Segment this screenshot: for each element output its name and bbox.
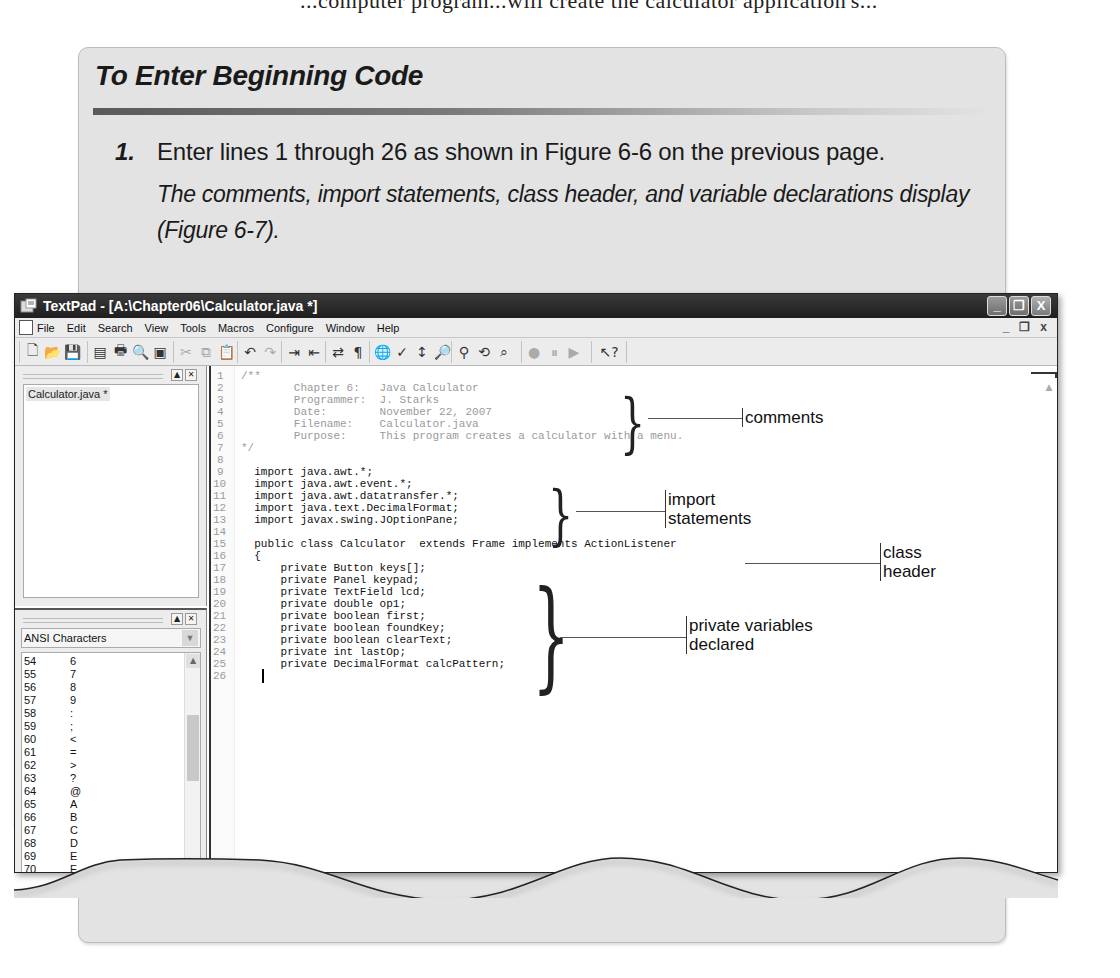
find-icon[interactable]: 🔎 [434,343,450,361]
code-line: Purpose: This program creates a calculat… [241,430,683,442]
code-line: import java.text.DecimalFormat; [241,502,459,514]
doc-close-button[interactable]: x [1040,320,1047,334]
list-item[interactable]: 62> [24,759,174,772]
step-result: The comments, import statements, class h… [157,176,997,248]
indent-icon[interactable]: ⇥ [286,343,302,361]
pane-maximize-button[interactable]: ▲ [171,613,183,625]
copy-icon[interactable]: ⧉ [198,343,214,361]
doc-restore-button[interactable]: ❐ [1019,320,1030,334]
code-line: private double op1; [241,598,406,610]
list-item[interactable]: 69E [24,850,174,863]
paste-icon[interactable]: 📋 [218,343,234,361]
line-number-gutter: 1 2 3 4 5 6 7 8 9 10 11 12 13 14 15 16 1… [211,366,235,873]
menu-configure[interactable]: Configure [266,322,314,334]
clip-library-select[interactable]: ANSI Characters ▼ [21,628,201,648]
list-item[interactable]: 568 [24,681,174,694]
unindent-icon[interactable]: ⇤ [306,343,322,361]
list-item[interactable]: 61= [24,746,174,759]
callout-class-header: classheader [880,543,936,581]
spelling-icon[interactable]: ✓ [394,343,410,361]
restore-button[interactable]: ❐ [1009,296,1029,316]
list-item[interactable]: 60< [24,733,174,746]
code-line: { [241,550,261,562]
sort-icon[interactable]: ↕ [414,343,430,361]
new-file-icon[interactable]: 🗋 [24,343,40,361]
open-folder-icon[interactable]: 📂 [44,343,60,361]
code-line: private boolean clearText; [241,634,452,646]
word-wrap-icon[interactable]: ⇄ [330,343,346,361]
menu-help[interactable]: Help [377,322,400,334]
code-line: private boolean first; [241,610,426,622]
chevron-down-icon[interactable]: ▼ [182,630,198,646]
manage-files-icon[interactable]: ▤ [92,343,108,361]
list-item[interactable]: 579 [24,694,174,707]
code-line: Filename: Calculator.java [241,418,479,430]
pane-close-button[interactable]: ✕ [185,369,197,381]
list-item[interactable]: 67C [24,824,174,837]
menu-macros[interactable]: Macros [218,322,254,334]
undo-icon[interactable]: ↶ [242,343,258,361]
menu-view[interactable]: View [145,322,169,334]
list-item[interactable]: 546 [24,655,174,668]
pane-grip[interactable] [23,618,163,623]
title-bar: TextPad - [A:\Chapter06\Calculator.java … [15,294,1057,318]
print-preview-icon[interactable]: 🔍 [132,343,148,361]
pane-close-button[interactable]: ✕ [185,613,197,625]
menu-window[interactable]: Window [326,322,365,334]
binoculars-icon[interactable]: ⌕ [496,343,512,361]
list-item[interactable]: 66B [24,811,174,824]
list-item[interactable]: 65A [24,798,174,811]
standard-toolbar: 🗋 📂 💾 ▤ 🖶 🔍 ▣ ✂ ⧉ 📋 ↶ ↷ ⇥ ⇤ ⇄ ¶ 🌐 [15,338,1057,366]
record-macro-icon[interactable]: ● [526,343,542,361]
pane-maximize-button[interactable]: ▲ [171,369,183,381]
play-macro-icon[interactable]: ▶ [566,343,582,361]
doc-minimize-button[interactable]: _ [1003,320,1010,334]
scroll-up-icon[interactable]: ▲ [1041,380,1057,394]
scroll-thumb[interactable] [187,715,199,781]
context-help-icon[interactable]: ↖? [596,343,622,361]
pilcrow-icon[interactable]: ¶ [350,343,366,361]
scroll-up-icon[interactable]: ▲ [186,654,200,668]
menu-file[interactable]: File [37,322,55,334]
imports-brace: } [548,476,573,553]
list-item[interactable]: 70F [24,863,174,873]
code-line: private TextField lcd; [241,586,426,598]
list-item[interactable]: 58: [24,707,174,720]
code-line: private Button keys[]; [241,562,426,574]
web-browser-icon[interactable]: 🌐 [374,343,390,361]
split-handle[interactable] [1031,372,1057,378]
cut-icon[interactable]: ✂ [178,343,194,361]
character-list-scrollbar[interactable]: ▲ [184,653,200,873]
document-icon[interactable] [19,320,33,335]
list-item[interactable]: 59; [24,720,174,733]
menu-tools[interactable]: Tools [180,322,206,334]
replace-icon[interactable]: ⟲ [476,343,492,361]
variables-brace: } [532,575,570,695]
document-item[interactable]: Calculator.java * [26,387,110,401]
previous-page-text: ...computer program...will create the ca… [0,0,1120,14]
comments-brace: } [620,384,645,461]
imports-leader-line [576,511,666,512]
code-line: */ [241,442,254,454]
print-icon[interactable]: 🖶 [112,343,128,361]
redo-icon[interactable]: ↷ [262,343,278,361]
code-line: /** [241,370,261,382]
editor-scrollbar[interactable]: ▲ [1041,366,1057,873]
pause-macro-icon[interactable]: ⏸ [546,343,562,361]
list-item[interactable]: 68D [24,837,174,850]
pane-grip[interactable] [23,374,163,379]
menu-bar: File Edit Search View Tools Macros Confi… [15,318,1057,338]
callout-comments: comments [742,408,823,427]
code-line: Chapter 6: Java Calculator [241,382,479,394]
list-item[interactable]: 64@ [24,785,174,798]
minimize-button[interactable]: _ [987,296,1007,316]
save-icon[interactable]: 💾 [64,343,80,361]
properties-icon[interactable]: ▣ [152,343,168,361]
list-item[interactable]: 557 [24,668,174,681]
list-item[interactable]: 63? [24,772,174,785]
find-in-files-icon[interactable]: ⚲ [456,343,472,361]
menu-edit[interactable]: Edit [67,322,86,334]
document-list: Calculator.java * [23,384,199,598]
menu-search[interactable]: Search [98,322,133,334]
close-button[interactable]: X [1031,296,1051,316]
